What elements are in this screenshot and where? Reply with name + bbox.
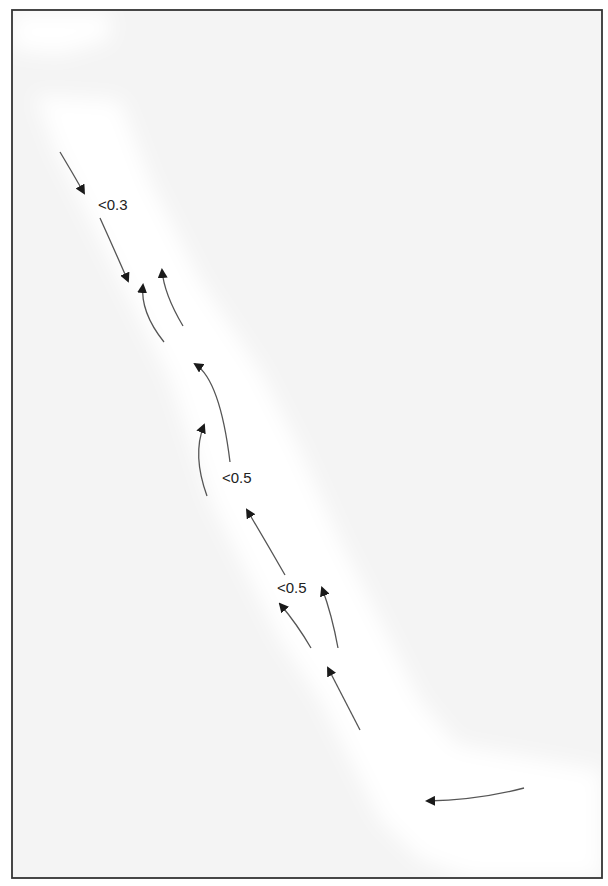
flow-rate-label-1: <0.3 [98,197,128,212]
flow-rate-label-3: <0.5 [277,580,307,595]
diagram-canvas [0,0,608,886]
flow-rate-label-2: <0.5 [222,470,252,485]
flow-diagram: <0.3 <0.5 <0.5 [0,0,608,886]
